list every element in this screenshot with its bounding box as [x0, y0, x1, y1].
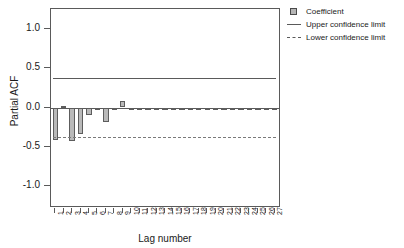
bar-lag-8: [112, 108, 117, 110]
legend-label-coefficient: Coefficient: [306, 6, 344, 17]
bar-lag-22: [230, 108, 235, 110]
legend-item-lower-confidence-limit: Lower confidence limit: [286, 32, 402, 43]
bar-lag-25: [255, 108, 260, 110]
bar-lag-5: [86, 108, 91, 115]
bar-lag-4: [78, 108, 83, 134]
x-tick: [223, 208, 224, 213]
lower-confidence-limit-line: [53, 137, 276, 138]
bar-lag-6: [95, 108, 100, 110]
y-tick-label-1.0: 1.0: [0, 23, 40, 33]
x-tick: [156, 208, 157, 213]
bar-lag-17: [188, 108, 193, 110]
bar-lag-18: [196, 108, 201, 110]
bar-lag-14: [162, 108, 167, 110]
x-tick: [63, 208, 64, 213]
bar-lag-15: [171, 108, 176, 110]
x-tick: [240, 208, 241, 213]
bar-lag-3: [69, 108, 74, 142]
bar-lag-21: [221, 108, 226, 110]
bar-lag-20: [213, 108, 218, 110]
x-tick: [181, 208, 182, 213]
bar-lag-24: [247, 108, 252, 110]
plot-inner: [51, 9, 279, 206]
legend-label-lower-confidence-limit: Lower confidence limit: [306, 32, 385, 43]
x-tick: [80, 208, 81, 213]
x-tick: [130, 208, 131, 213]
x-tick: [215, 208, 216, 213]
bar-lag-23: [238, 108, 243, 110]
bar-lag-9: [120, 101, 125, 107]
y-tick-label--1.0: -1.0: [0, 180, 40, 190]
x-tick: [198, 208, 199, 213]
y-tick-label--0.5: -0.5: [0, 141, 40, 151]
legend-item-coefficient: Coefficient: [286, 6, 402, 17]
bar-lag-26: [264, 108, 269, 110]
x-tick: [274, 208, 275, 213]
legend-item-upper-confidence-limit: Upper confidence limit: [286, 19, 402, 30]
x-tick: [105, 208, 106, 213]
plot-area: [50, 8, 280, 207]
dashed-line-key-icon: [286, 32, 302, 43]
x-tick: [206, 208, 207, 213]
y-tick-label-0.0: 0.0: [0, 102, 40, 112]
solid-line-key-icon: [286, 19, 302, 30]
x-tick: [147, 208, 148, 213]
x-tick-label-27: 27: [276, 207, 283, 215]
bar-lag-7: [103, 108, 108, 122]
x-tick: [232, 208, 233, 213]
bar-lag-12: [145, 108, 150, 110]
x-tick: [248, 208, 249, 213]
x-tick: [189, 208, 190, 213]
y-tick-label-0.5: 0.5: [0, 62, 40, 72]
bar-lag-10: [129, 108, 134, 110]
bar-lag-1: [53, 108, 58, 140]
bar-lag-2: [61, 106, 66, 108]
pacf-chart: Coefficient Upper confidence limit Lower…: [0, 0, 404, 248]
chart-legend: Coefficient Upper confidence limit Lower…: [286, 6, 402, 43]
x-tick: [122, 208, 123, 213]
legend-label-upper-confidence-limit: Upper confidence limit: [306, 19, 385, 30]
x-tick: [265, 208, 266, 213]
bar-lag-11: [137, 108, 142, 110]
x-tick: [257, 208, 258, 213]
bar-lag-27: [272, 108, 277, 110]
x-tick: [71, 208, 72, 213]
x-tick: [164, 208, 165, 213]
x-tick: [139, 208, 140, 213]
x-tick: [54, 208, 55, 213]
upper-confidence-limit-line: [53, 78, 276, 79]
x-tick: [172, 208, 173, 213]
x-tick: [96, 208, 97, 213]
x-tick: [113, 208, 114, 213]
filled-square-key-icon: [286, 6, 302, 17]
bar-lag-13: [154, 108, 159, 110]
x-tick: [88, 208, 89, 213]
x-axis-title: Lag number: [50, 233, 280, 245]
bar-lag-16: [179, 108, 184, 110]
bar-lag-19: [205, 108, 210, 110]
